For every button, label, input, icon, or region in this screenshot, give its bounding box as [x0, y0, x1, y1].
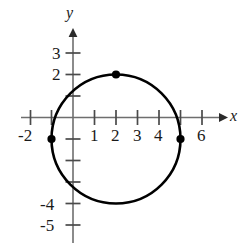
plot-canvas	[0, 0, 242, 246]
x-tick-label-1: 1	[90, 127, 99, 144]
x-axis-label: x	[230, 108, 237, 124]
point-top	[112, 70, 120, 78]
x-tick-label-4: 4	[154, 127, 163, 144]
y-tick-label-neg5: -5	[40, 217, 54, 234]
x-tick-label-6: 6	[197, 127, 206, 144]
y-tick-label-2: 2	[52, 66, 61, 83]
point-right	[176, 135, 184, 143]
x-tick-label-neg2: -2	[18, 127, 32, 144]
circle-graph-figure: y x 3 2 -4 -5 -2 1 2 3 4 6	[0, 0, 242, 246]
point-left	[47, 135, 55, 143]
x-tick-label-3: 3	[133, 127, 142, 144]
y-tick-label-neg4: -4	[40, 196, 54, 213]
x-tick-label-2: 2	[111, 127, 120, 144]
y-axis-label: y	[66, 5, 73, 21]
y-axis-arrowhead	[69, 28, 78, 37]
x-axis-group	[21, 110, 228, 125]
y-tick-label-3: 3	[52, 45, 61, 62]
y-axis-group	[66, 28, 81, 243]
x-axis-arrowhead	[219, 113, 228, 122]
